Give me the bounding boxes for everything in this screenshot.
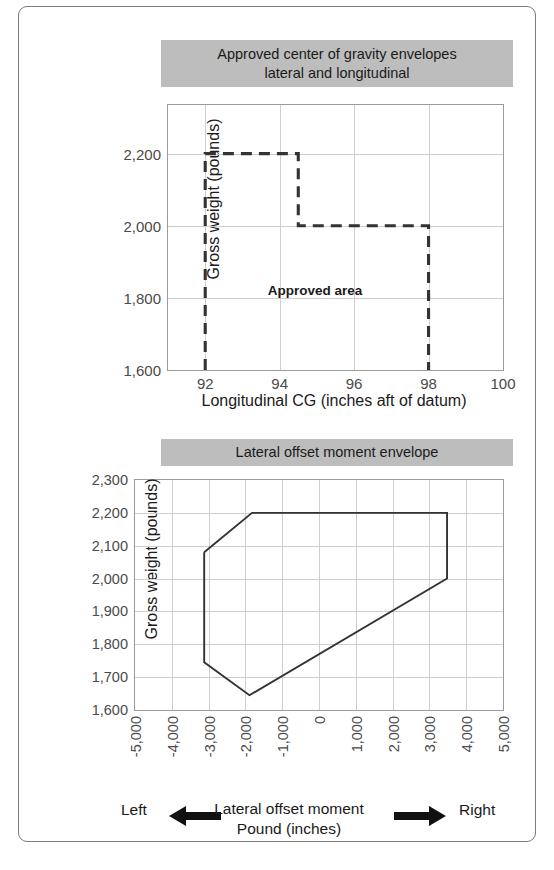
- y-tick-label: 2,200: [123, 145, 161, 162]
- x-tick-label: 2,000: [386, 716, 402, 752]
- x-tick-label: 94: [271, 375, 288, 392]
- y-tick-label: 1,900: [92, 603, 128, 619]
- x-tick-label: -4,000: [165, 716, 181, 757]
- chart1-plot-area: Gross weight (pounds) 1,6001,8002,0002,2…: [167, 104, 504, 371]
- chart1-envelope-path: [168, 105, 503, 370]
- chart1-title: Approved center of gravity envelopes lat…: [161, 40, 513, 87]
- y-tick-label: 2,300: [92, 472, 128, 488]
- chart2-footer: Left Lateral offset moment Pound (inches…: [59, 797, 519, 847]
- x-tick-label: 98: [420, 375, 437, 392]
- chart1-title-line2: lateral and longitudinal: [264, 64, 409, 83]
- chart2-title-text: Lateral offset moment envelope: [236, 443, 439, 462]
- right-arrow-icon: [394, 805, 446, 827]
- x-tick-label: 0: [312, 716, 328, 724]
- y-tick-label: 2,200: [92, 505, 128, 521]
- chart2-x-axis-label: Lateral offset moment Pound (inches): [199, 799, 379, 839]
- chart1-title-line1: Approved center of gravity envelopes: [217, 45, 456, 64]
- x-tick-label: 1,000: [349, 716, 365, 752]
- x-tick-label: -5,000: [128, 716, 144, 757]
- chart2-x-axis-label-line1: Lateral offset moment: [199, 799, 379, 819]
- figure-frame: Approved center of gravity envelopes lat…: [18, 6, 536, 842]
- x-tick-label: 92: [197, 375, 214, 392]
- footer-left-label: Left: [121, 801, 147, 819]
- x-tick-label: -2,000: [238, 716, 254, 757]
- chart2-x-axis-label-line2: Pound (inches): [199, 819, 379, 839]
- y-tick-label: 1,800: [92, 636, 128, 652]
- chart2-envelope-path: [135, 480, 503, 710]
- y-tick-label: 2,000: [92, 571, 128, 587]
- x-tick-label: 4,000: [459, 716, 475, 752]
- y-tick-label: 1,600: [123, 362, 161, 379]
- y-tick-label: 1,600: [92, 702, 128, 718]
- x-tick-label: 96: [346, 375, 363, 392]
- x-tick-label: -1,000: [275, 716, 291, 757]
- chart1-x-axis-label: Longitudinal CG (inches aft of datum): [124, 392, 544, 410]
- chart2-plot-area: Gross weight (pounds) 1,6001,7001,8001,9…: [134, 479, 504, 711]
- x-tick-label: -3,000: [202, 716, 218, 757]
- chart2-title: Lateral offset moment envelope: [161, 439, 513, 466]
- y-tick-label: 1,700: [92, 669, 128, 685]
- x-tick-label: 3,000: [422, 716, 438, 752]
- chart1-approved-area-label: Approved area: [268, 282, 363, 297]
- y-tick-label: 2,000: [123, 217, 161, 234]
- x-tick-label: 100: [490, 375, 515, 392]
- figure-page: Approved center of gravity envelopes lat…: [0, 0, 554, 870]
- y-tick-label: 1,800: [123, 289, 161, 306]
- y-tick-label: 2,100: [92, 538, 128, 554]
- x-tick-label: 5,000: [496, 716, 512, 752]
- footer-right-label: Right: [459, 801, 495, 819]
